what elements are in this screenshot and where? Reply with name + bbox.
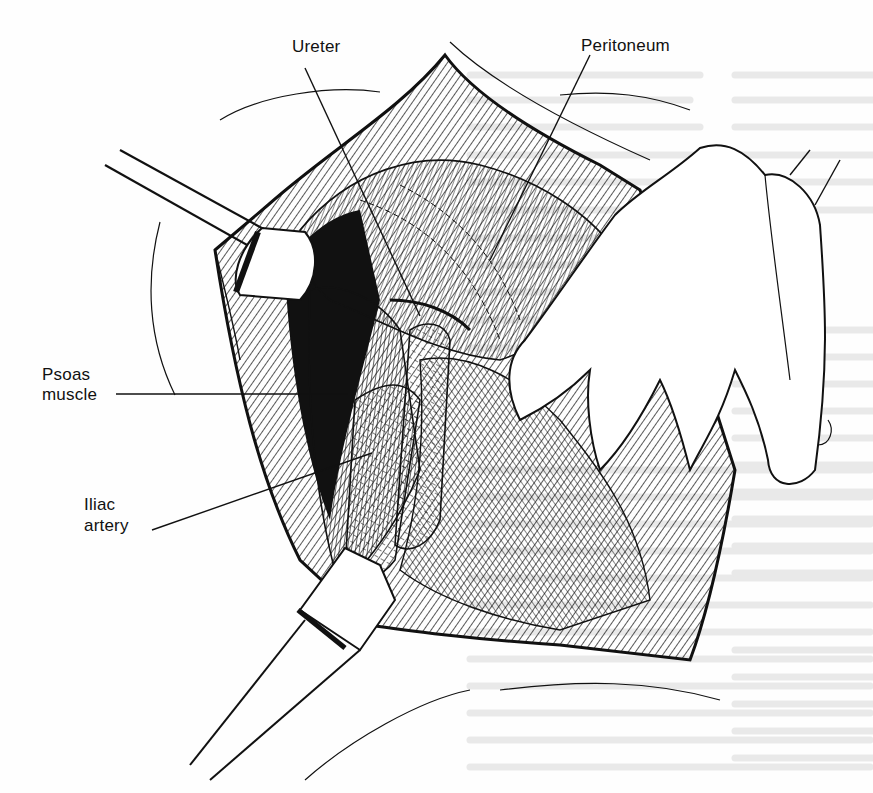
label-peritoneum: Peritoneum: [581, 36, 670, 56]
label-psoas-line2: muscle: [42, 385, 97, 405]
surgical-illustration: [0, 0, 873, 793]
label-iliac-line1: Iliac: [84, 495, 115, 515]
label-ureter: Ureter: [292, 37, 340, 57]
label-iliac-line2: artery: [84, 516, 129, 536]
illustration-canvas: Ureter Peritoneum Psoas muscle Iliac art…: [0, 0, 873, 793]
label-psoas-line1: Psoas: [42, 365, 90, 385]
retractor-lower-left: [190, 548, 395, 780]
